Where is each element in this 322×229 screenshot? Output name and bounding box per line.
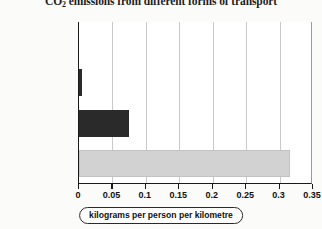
x-tick-label: 0.15 xyxy=(170,190,188,200)
chart-title: CO2 emissions from different forms of tr… xyxy=(0,0,322,7)
x-tick-label: 0.1 xyxy=(139,190,152,200)
bar-car-driver-only xyxy=(79,150,290,177)
x-tick-label: 0.35 xyxy=(303,190,321,200)
chart-title-suffix: emissions from different forms of transp… xyxy=(66,0,277,7)
chart-page: CO2 emissions from different forms of tr… xyxy=(0,0,322,229)
x-tick-label: 0 xyxy=(75,190,80,200)
plot-area xyxy=(78,22,312,184)
x-tick-mark xyxy=(178,184,179,189)
x-tick-mark xyxy=(111,184,112,189)
chart-title-prefix: CO xyxy=(45,0,62,7)
x-tick-mark xyxy=(145,184,146,189)
bar-car-4-people xyxy=(79,110,129,137)
x-axis-caption: kilograms per person per kilometre xyxy=(79,207,243,224)
bar-bus-or-train xyxy=(79,69,82,96)
x-tick-label: 0.25 xyxy=(236,190,254,200)
x-tick-mark xyxy=(212,184,213,189)
x-tick-mark xyxy=(279,184,280,189)
x-tick-label: 0.2 xyxy=(205,190,218,200)
x-tick-mark xyxy=(245,184,246,189)
x-tick-mark xyxy=(78,184,79,189)
chart-title-subscript: 2 xyxy=(62,0,66,9)
x-tick-label: 0.05 xyxy=(103,190,121,200)
x-tick-mark xyxy=(312,184,313,189)
x-tick-label: 0.3 xyxy=(272,190,285,200)
